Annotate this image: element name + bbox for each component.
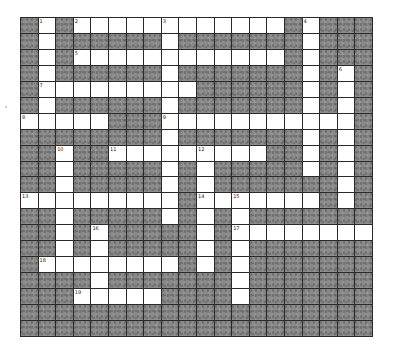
answer-cell[interactable] — [91, 257, 108, 272]
answer-cell[interactable] — [91, 241, 108, 256]
answer-cell[interactable] — [355, 225, 372, 240]
answer-cell[interactable] — [56, 177, 73, 192]
answer-cell[interactable] — [197, 50, 214, 65]
answer-cell[interactable] — [338, 225, 355, 240]
answer-cell[interactable] — [127, 146, 144, 161]
answer-cell[interactable] — [144, 50, 161, 65]
answer-cell[interactable] — [127, 257, 144, 272]
answer-cell[interactable]: 1 — [39, 18, 56, 33]
answer-cell[interactable] — [303, 82, 320, 97]
answer-cell[interactable] — [39, 66, 56, 81]
answer-cell[interactable] — [303, 114, 320, 129]
answer-cell[interactable] — [338, 162, 355, 177]
answer-cell[interactable] — [109, 50, 126, 65]
answer-cell[interactable] — [74, 257, 91, 272]
answer-cell[interactable] — [162, 130, 179, 145]
answer-cell[interactable] — [338, 114, 355, 129]
answer-cell[interactable] — [162, 34, 179, 49]
answer-cell[interactable] — [144, 18, 161, 33]
answer-cell[interactable] — [215, 18, 232, 33]
answer-cell[interactable] — [197, 225, 214, 240]
answer-cell[interactable] — [144, 289, 161, 304]
answer-cell[interactable] — [162, 193, 179, 208]
answer-cell[interactable] — [303, 146, 320, 161]
answer-cell[interactable]: 11 — [109, 146, 126, 161]
answer-cell[interactable] — [74, 193, 91, 208]
answer-cell[interactable] — [303, 225, 320, 240]
answer-cell[interactable] — [250, 18, 267, 33]
answer-cell[interactable] — [39, 193, 56, 208]
answer-cell[interactable] — [197, 177, 214, 192]
answer-cell[interactable] — [338, 193, 355, 208]
answer-cell[interactable] — [303, 98, 320, 113]
answer-cell[interactable] — [162, 177, 179, 192]
answer-cell[interactable] — [91, 18, 108, 33]
answer-cell[interactable] — [74, 82, 91, 97]
answer-cell[interactable] — [109, 193, 126, 208]
answer-cell[interactable]: 18 — [39, 257, 56, 272]
answer-cell[interactable] — [91, 273, 108, 288]
answer-cell[interactable] — [232, 257, 249, 272]
answer-cell[interactable] — [267, 225, 284, 240]
answer-cell[interactable] — [320, 225, 337, 240]
answer-cell[interactable]: 14 — [197, 193, 214, 208]
answer-cell[interactable] — [267, 193, 284, 208]
answer-cell[interactable] — [56, 209, 73, 224]
answer-cell[interactable] — [109, 82, 126, 97]
answer-cell[interactable] — [215, 146, 232, 161]
answer-cell[interactable] — [179, 114, 196, 129]
answer-cell[interactable] — [91, 114, 108, 129]
answer-cell[interactable] — [285, 114, 302, 129]
answer-cell[interactable] — [197, 18, 214, 33]
answer-cell[interactable] — [232, 18, 249, 33]
answer-cell[interactable] — [39, 50, 56, 65]
answer-cell[interactable] — [109, 18, 126, 33]
answer-cell[interactable] — [338, 177, 355, 192]
answer-cell[interactable] — [215, 114, 232, 129]
answer-cell[interactable] — [179, 50, 196, 65]
answer-cell[interactable] — [162, 209, 179, 224]
answer-cell[interactable]: 12 — [197, 146, 214, 161]
answer-cell[interactable]: 10 — [56, 146, 73, 161]
answer-cell[interactable] — [162, 82, 179, 97]
answer-cell[interactable] — [179, 146, 196, 161]
answer-cell[interactable] — [127, 82, 144, 97]
answer-cell[interactable]: 8 — [21, 114, 38, 129]
answer-cell[interactable]: 17 — [232, 225, 249, 240]
answer-cell[interactable] — [338, 98, 355, 113]
answer-cell[interactable] — [232, 273, 249, 288]
answer-cell[interactable] — [303, 66, 320, 81]
answer-cell[interactable] — [320, 114, 337, 129]
answer-cell[interactable] — [303, 34, 320, 49]
answer-cell[interactable] — [162, 50, 179, 65]
answer-cell[interactable] — [303, 193, 320, 208]
answer-cell[interactable]: 3 — [162, 18, 179, 33]
answer-cell[interactable] — [39, 114, 56, 129]
answer-cell[interactable] — [250, 114, 267, 129]
answer-cell[interactable] — [162, 257, 179, 272]
answer-cell[interactable] — [162, 66, 179, 81]
answer-cell[interactable] — [56, 241, 73, 256]
answer-cell[interactable] — [250, 193, 267, 208]
answer-cell[interactable] — [197, 162, 214, 177]
answer-cell[interactable] — [144, 82, 161, 97]
answer-cell[interactable] — [338, 130, 355, 145]
answer-cell[interactable]: 13 — [21, 193, 38, 208]
answer-cell[interactable] — [91, 82, 108, 97]
answer-cell[interactable] — [197, 114, 214, 129]
answer-cell[interactable] — [232, 241, 249, 256]
answer-cell[interactable]: 7 — [39, 82, 56, 97]
answer-cell[interactable]: 19 — [74, 289, 91, 304]
answer-cell[interactable] — [127, 50, 144, 65]
answer-cell[interactable] — [250, 225, 267, 240]
answer-cell[interactable] — [127, 18, 144, 33]
answer-cell[interactable] — [250, 50, 267, 65]
answer-cell[interactable] — [215, 193, 232, 208]
answer-cell[interactable] — [338, 146, 355, 161]
answer-cell[interactable] — [144, 146, 161, 161]
answer-cell[interactable] — [109, 289, 126, 304]
answer-cell[interactable] — [56, 162, 73, 177]
answer-cell[interactable] — [162, 162, 179, 177]
answer-cell[interactable] — [250, 146, 267, 161]
answer-cell[interactable]: 4 — [303, 18, 320, 33]
